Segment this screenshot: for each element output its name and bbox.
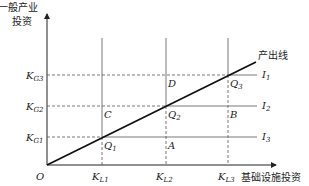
svg-text:KG3: KG3 (25, 70, 44, 83)
svg-text:KG1: KG1 (25, 132, 44, 145)
svg-text:KL1: KL1 (91, 171, 109, 184)
y-tick-kg1: KG1 (25, 132, 44, 145)
point-c: C (104, 109, 112, 120)
x-axis-label: 基础设施投资 (241, 171, 301, 183)
point-q1: Q1 (104, 140, 117, 153)
x-tick-kl1: KL1 (91, 171, 109, 184)
svg-text:I1: I1 (261, 69, 270, 82)
point-b: B (229, 109, 237, 120)
svg-text:KL2: KL2 (155, 171, 173, 184)
point-q3: Q3 (230, 78, 243, 91)
y-tick-kg3: KG3 (25, 70, 44, 83)
y-axis-label-2: 投资 (12, 15, 32, 27)
output-line (47, 62, 256, 165)
point-a: A (167, 140, 175, 151)
svg-text:I2: I2 (261, 100, 271, 113)
y-tick-kg2: KG2 (25, 101, 44, 114)
svg-text:KL3: KL3 (217, 171, 235, 184)
investment-diagram: 一般产业 投资 基础设施投资 O 产出线 KG3 KG2 KG1 KL1 KL2… (0, 0, 309, 186)
x-tick-kl2: KL2 (155, 171, 173, 184)
svg-text:I3: I3 (261, 131, 271, 144)
svg-text:Q1: Q1 (104, 140, 117, 153)
isoquant-i2: I2 (261, 100, 271, 113)
origin-label: O (36, 171, 44, 182)
output-line-label: 产出线 (258, 49, 288, 61)
svg-text:Q3: Q3 (230, 78, 243, 91)
isoquant-i3: I3 (261, 131, 271, 144)
x-tick-kl3: KL3 (217, 171, 235, 184)
svg-text:Q2: Q2 (168, 109, 181, 122)
y-axis-label: 一般产业 (0, 1, 38, 13)
point-q2: Q2 (168, 109, 181, 122)
point-d: D (167, 78, 176, 89)
svg-text:KG2: KG2 (25, 101, 44, 114)
isoquant-i1: I1 (261, 69, 270, 82)
